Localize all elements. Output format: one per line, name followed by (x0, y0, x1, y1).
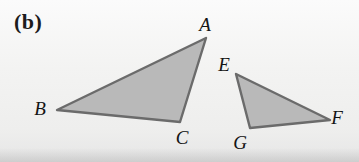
panel-label: (b) (14, 11, 42, 33)
vertex-label-a: A (199, 15, 211, 34)
labels-layer: (b) A B C E F G (0, 0, 359, 162)
vertex-label-c: C (176, 128, 189, 147)
vertex-label-e: E (218, 55, 230, 74)
vertex-label-b: B (34, 99, 46, 118)
vertex-label-g: G (233, 133, 247, 152)
geometry-figure: (b) A B C E F G (0, 0, 359, 162)
vertex-label-f: F (331, 108, 343, 127)
